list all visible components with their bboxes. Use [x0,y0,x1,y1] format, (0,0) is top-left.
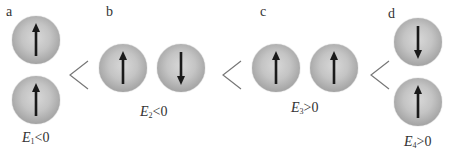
spin-sphere-down [394,18,442,66]
arrow-down-icon [157,44,205,92]
arrow-up-icon [310,44,358,92]
energy-relation: <0 [35,130,50,145]
energy-label-4: E4>0 [404,134,431,150]
energy-relation: >0 [417,134,432,149]
spin-sphere-up [394,78,442,126]
spin-sphere-up [12,76,60,124]
arrow-up-icon [99,44,147,92]
energy-relation: <0 [153,104,168,119]
panel-label-b: b [106,4,113,20]
energy-symbol: E [22,130,31,145]
energy-label-2: E2<0 [140,104,167,120]
energy-symbol: E [404,134,413,149]
energy-label-1: E1<0 [22,130,49,146]
less-than-symbol [68,59,90,91]
arrow-up-icon [252,44,300,92]
energy-symbol: E [140,104,149,119]
energy-label-3: E3>0 [291,100,318,116]
spin-sphere-up [12,16,60,64]
spin-sphere-down [157,44,205,92]
less-than-symbol [221,59,243,91]
arrow-up-icon [12,76,60,124]
spin-sphere-up [99,44,147,92]
panel-label-c: c [260,4,266,20]
less-than-symbol [369,59,391,91]
arrow-up-icon [394,78,442,126]
spin-sphere-up [310,44,358,92]
arrow-up-icon [12,16,60,64]
arrow-down-icon [394,18,442,66]
energy-symbol: E [291,100,300,115]
energy-relation: >0 [304,100,319,115]
spin-sphere-up [252,44,300,92]
